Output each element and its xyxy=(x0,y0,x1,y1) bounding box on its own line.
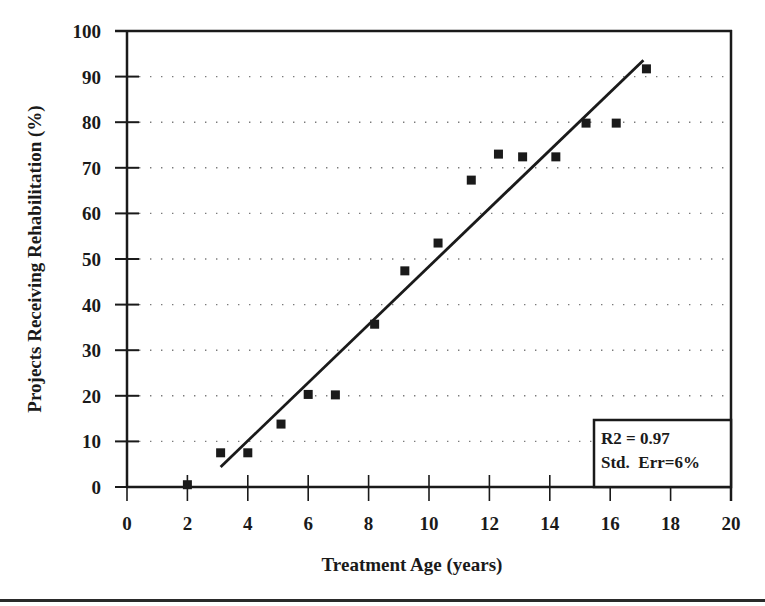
x-tick-label: 18 xyxy=(661,513,680,534)
y-tick-label: 10 xyxy=(82,431,101,452)
regression-line xyxy=(221,60,644,467)
x-tick-label: 14 xyxy=(540,513,560,534)
y-tick-label: 0 xyxy=(92,477,102,498)
y-tick-label: 40 xyxy=(82,295,101,316)
x-tick-label: 0 xyxy=(122,513,132,534)
y-tick-label: 80 xyxy=(82,112,101,133)
y-axis-ticks: 0102030405060708090100 xyxy=(73,21,140,498)
x-tick-label: 8 xyxy=(364,513,374,534)
y-tick-label: 70 xyxy=(82,158,101,179)
y-tick-label: 50 xyxy=(82,249,101,270)
y-tick-label: 60 xyxy=(82,203,101,224)
data-point xyxy=(243,448,252,457)
data-point xyxy=(434,239,443,248)
x-tick-label: 6 xyxy=(303,513,313,534)
scatter-chart: 0102030405060708090100 02468101214161820… xyxy=(0,0,765,606)
data-point xyxy=(331,390,340,399)
data-point xyxy=(612,119,621,128)
x-tick-label: 12 xyxy=(480,513,499,534)
annotation-box: R2 = 0.97 Std. Err=6% xyxy=(594,420,731,487)
data-point xyxy=(370,320,379,329)
y-axis-title: Projects Receiving Rehabilitation (%) xyxy=(24,105,46,412)
data-point xyxy=(582,119,591,128)
data-point xyxy=(277,420,286,429)
y-tick-label: 90 xyxy=(82,67,101,88)
data-point xyxy=(494,150,503,159)
data-point xyxy=(216,448,225,457)
data-point xyxy=(518,152,527,161)
bottom-divider xyxy=(0,599,765,602)
y-tick-label: 30 xyxy=(82,340,101,361)
x-tick-label: 10 xyxy=(420,513,439,534)
y-tick-label: 20 xyxy=(82,386,101,407)
std-error-label: Std. Err=6% xyxy=(601,453,700,472)
x-tick-label: 16 xyxy=(601,513,620,534)
y-tick-label: 100 xyxy=(73,21,102,42)
data-point xyxy=(642,64,651,73)
x-tick-label: 20 xyxy=(722,513,741,534)
data-point xyxy=(467,176,476,185)
r-squared-label: R2 = 0.97 xyxy=(601,429,670,448)
data-point xyxy=(400,266,409,275)
x-axis-title: Treatment Age (years) xyxy=(322,554,503,576)
data-point xyxy=(551,152,560,161)
x-tick-label: 2 xyxy=(183,513,193,534)
x-tick-label: 4 xyxy=(243,513,253,534)
data-point xyxy=(304,390,313,399)
